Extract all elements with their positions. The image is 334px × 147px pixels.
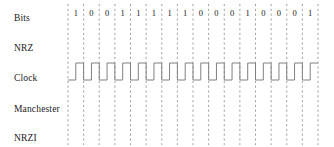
waveform-figure: BitsNRZClockManchesterNRZI 1001111100010…	[0, 0, 334, 147]
clock-waveform	[0, 0, 334, 147]
clock-trace	[68, 63, 318, 80]
